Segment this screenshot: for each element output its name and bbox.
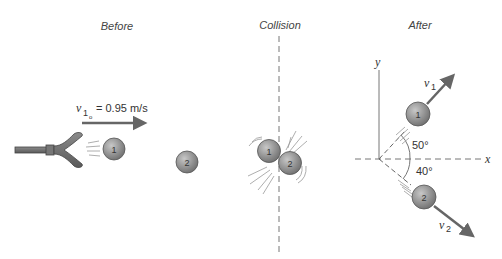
angle-arc-40 xyxy=(403,159,410,179)
motion-lines-ball-1-icon xyxy=(396,127,410,144)
motion-lines-ball-2-icon xyxy=(398,180,412,197)
y-axis-label: y xyxy=(374,55,381,69)
collision-diagram: Before v 1 o = 0.95 m/s 1 xyxy=(0,0,502,259)
svg-text:2: 2 xyxy=(184,158,189,168)
pusher-stick-icon xyxy=(15,133,82,168)
svg-text:1: 1 xyxy=(111,145,116,155)
collision-panel: Collision 1 2 xyxy=(248,19,307,252)
ball-1-after: 1 xyxy=(406,102,430,126)
ball-1-collision: 1 xyxy=(258,140,281,163)
svg-text:v: v xyxy=(424,76,430,90)
velocity-subscript: 1 xyxy=(83,108,88,118)
x-axis-label: x xyxy=(484,152,491,166)
velocity-symbol: v xyxy=(76,101,82,115)
svg-text:2: 2 xyxy=(287,159,292,169)
collision-title: Collision xyxy=(259,19,301,31)
svg-text:2: 2 xyxy=(421,193,426,203)
ball-2-collision: 2 xyxy=(279,152,302,175)
after-panel: After y x 50° 40° 1 v 1 xyxy=(355,19,491,234)
v1-label: v 1 xyxy=(424,76,436,92)
before-title: Before xyxy=(101,20,133,32)
motion-lines-icon xyxy=(86,141,100,156)
svg-text:1: 1 xyxy=(431,82,436,92)
ball-2-after: 2 xyxy=(412,185,436,209)
svg-text:1: 1 xyxy=(266,147,271,157)
angle-50-label: 50° xyxy=(412,139,429,151)
svg-text:v: v xyxy=(439,218,445,232)
v2-label: v 2 xyxy=(439,218,451,234)
svg-text:1: 1 xyxy=(415,110,420,120)
ball-1-before: 1 xyxy=(103,138,125,160)
angle-40-label: 40° xyxy=(416,165,433,177)
before-panel: Before v 1 o = 0.95 m/s 1 xyxy=(15,20,198,173)
initial-velocity-label: v 1 o = 0.95 m/s xyxy=(76,101,148,120)
after-title: After xyxy=(407,19,433,31)
ball-2-trajectory xyxy=(379,159,411,185)
ball-2-before: 2 xyxy=(176,151,198,173)
velocity-subsubscript: o xyxy=(89,114,93,120)
velocity-value: = 0.95 m/s xyxy=(96,102,148,114)
svg-text:2: 2 xyxy=(446,224,451,234)
